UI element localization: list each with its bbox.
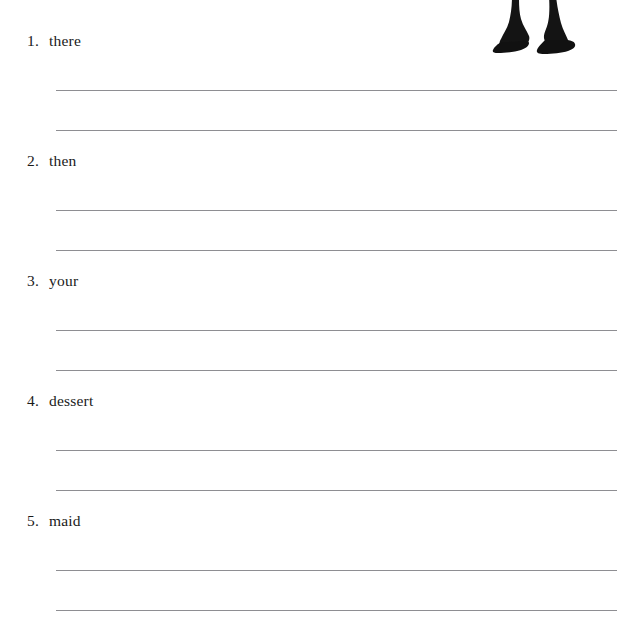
answer-writing-line[interactable] xyxy=(56,490,617,491)
exercise-item: 1.there xyxy=(0,33,640,153)
answer-writing-line[interactable] xyxy=(56,610,617,611)
worksheet-page: 1.there2.then3.your4.dessert5.maid xyxy=(0,0,640,643)
exercise-item: 2.then xyxy=(0,153,640,273)
exercise-item: 5.maid xyxy=(0,513,640,633)
answer-lines xyxy=(0,33,640,153)
answer-writing-line[interactable] xyxy=(56,130,617,131)
answer-writing-line[interactable] xyxy=(56,450,617,451)
answer-writing-line[interactable] xyxy=(56,90,617,91)
answer-writing-line[interactable] xyxy=(56,250,617,251)
answer-lines xyxy=(0,513,640,633)
exercise-item: 4.dessert xyxy=(0,393,640,513)
answer-lines xyxy=(0,273,640,393)
answer-lines xyxy=(0,393,640,513)
exercise-item: 3.your xyxy=(0,273,640,393)
answer-writing-line[interactable] xyxy=(56,370,617,371)
answer-writing-line[interactable] xyxy=(56,330,617,331)
answer-writing-line[interactable] xyxy=(56,210,617,211)
answer-lines xyxy=(0,153,640,273)
answer-writing-line[interactable] xyxy=(56,570,617,571)
